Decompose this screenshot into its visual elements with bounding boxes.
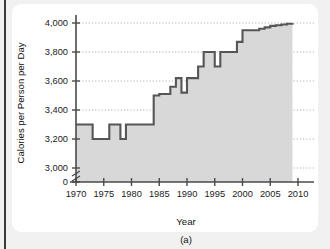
- y-tick-label: 0: [63, 177, 68, 187]
- x-tick-label: 2010: [288, 189, 309, 199]
- x-tick-label: 2005: [260, 189, 281, 199]
- y-axis-tick-labels: 03,0003,2003,4003,6003,8004,000: [45, 18, 68, 187]
- figure-page: 03,0003,2003,4003,6003,8004,000 19701975…: [0, 0, 330, 249]
- x-tick-label: 1975: [93, 189, 114, 199]
- series-area-fill: [76, 23, 292, 182]
- chart-area: 03,0003,2003,4003,6003,8004,000 19701975…: [0, 0, 330, 249]
- y-tick-label: 4,000: [45, 18, 68, 28]
- x-axis-title: Year: [176, 216, 196, 227]
- y-axis-title: Calories per Person per Day: [15, 42, 26, 163]
- x-tick-label: 1995: [204, 189, 225, 199]
- x-tick-label: 1985: [149, 189, 170, 199]
- x-axis-tick-labels: 197019751980198519901995200020052010: [66, 189, 309, 199]
- x-tick-label: 1970: [66, 189, 87, 199]
- y-tick-label: 3,400: [45, 105, 68, 115]
- x-tick-label: 1980: [121, 189, 142, 199]
- series-fill-area: [76, 23, 292, 182]
- y-tick-label: 3,000: [45, 163, 68, 173]
- figure-caption: (a): [180, 234, 192, 245]
- line-area-chart: 03,0003,2003,4003,6003,8004,000 19701975…: [0, 0, 330, 249]
- x-tick-label: 1990: [177, 189, 198, 199]
- y-tick-label: 3,600: [45, 76, 68, 86]
- y-tick-label: 3,200: [45, 134, 68, 144]
- y-tick-label: 3,800: [45, 47, 68, 57]
- x-tick-label: 2000: [232, 189, 253, 199]
